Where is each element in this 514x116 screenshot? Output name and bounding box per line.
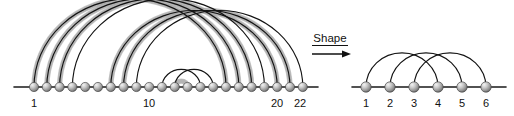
graph-node xyxy=(361,82,371,92)
graph-node xyxy=(132,82,141,91)
graph-node xyxy=(119,82,128,91)
graph-node xyxy=(273,82,282,91)
arc-diagram-figure: 1102022 Shape 123456 xyxy=(0,0,514,116)
graph-node xyxy=(183,82,192,91)
graph-node xyxy=(481,82,491,92)
shape-node-label: 5 xyxy=(459,97,465,109)
graph-node xyxy=(196,82,205,91)
graph-node xyxy=(29,82,38,91)
operator-label: Shape xyxy=(313,32,346,44)
thin-arc xyxy=(162,69,200,87)
shape-arc xyxy=(366,53,438,87)
figure-canvas: 1102022 Shape 123456 xyxy=(0,0,514,116)
shape-node-label: 4 xyxy=(435,97,441,109)
graph-node xyxy=(247,82,256,91)
graph-node xyxy=(81,82,90,91)
shape-node-label: 6 xyxy=(483,97,489,109)
source-node-label: 20 xyxy=(271,97,283,109)
graph-node xyxy=(298,82,307,91)
graph-node xyxy=(55,82,64,91)
shape-arc-group xyxy=(366,53,486,87)
source-node-label: 1 xyxy=(31,97,37,109)
graph-node xyxy=(42,82,51,91)
right-arrow-head-icon xyxy=(342,51,351,58)
shape-arc xyxy=(390,53,462,87)
graph-node xyxy=(433,82,443,92)
graph-node xyxy=(285,82,294,91)
graph-node xyxy=(157,82,166,91)
graph-node xyxy=(457,82,467,92)
graph-node xyxy=(145,82,154,91)
graph-node xyxy=(170,82,179,91)
graph-node xyxy=(409,82,419,92)
source-node-label-group: 1102022 xyxy=(31,97,306,109)
graph-node xyxy=(234,82,243,91)
shape-node-label: 2 xyxy=(387,97,393,109)
graph-node xyxy=(260,82,269,91)
shape-operator: Shape xyxy=(312,32,351,57)
graph-node xyxy=(385,82,395,92)
shape-node-label: 1 xyxy=(363,97,369,109)
shape-node-label: 3 xyxy=(411,97,417,109)
shape-node-label-group: 123456 xyxy=(363,97,489,109)
graph-node xyxy=(93,82,102,91)
graph-node xyxy=(68,82,77,91)
source-node-label: 10 xyxy=(143,97,155,109)
graph-node xyxy=(209,82,218,91)
thin-arc xyxy=(175,69,213,87)
source-node-label: 22 xyxy=(294,97,306,109)
graph-node xyxy=(106,82,115,91)
graph-node xyxy=(221,82,230,91)
shape-arc xyxy=(414,53,486,87)
